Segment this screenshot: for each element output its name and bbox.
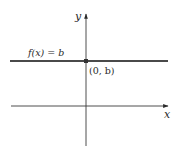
function-label: f(x) = b (27, 47, 64, 58)
y-axis-label: y (74, 10, 82, 23)
x-axis-label: x (164, 108, 171, 121)
point-label: (0, b) (89, 65, 115, 76)
constant-function-diagram: y x f(x) = b (0, b) (0, 0, 185, 157)
y-intercept-point (84, 59, 88, 63)
